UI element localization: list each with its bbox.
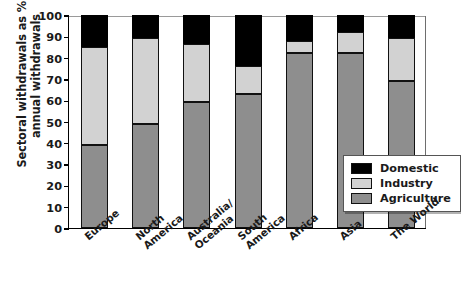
y-tick-label: 0 [22,223,62,236]
bar-segment-industry [132,38,159,123]
legend-label: Industry [380,177,433,190]
y-tick-mark [64,186,69,187]
y-tick-label: 10 [22,201,62,214]
y-tick-mark [64,228,69,229]
bar-segment-agriculture [235,94,262,228]
bar-segment-industry [286,41,313,54]
y-tick-label: 100 [22,10,62,23]
bar-segment-domestic [337,15,364,32]
y-tick-mark [64,15,69,16]
bar-segment-industry [388,38,415,81]
legend-item: Domestic [351,161,451,176]
y-tick-label: 50 [22,116,62,129]
bar-segment-domestic [183,15,210,44]
y-tick-mark [64,79,69,80]
bar-segment-domestic [388,15,415,38]
bar-segment-domestic [81,15,108,47]
bar-south-america [235,15,262,228]
y-tick-label: 30 [22,159,62,172]
bar-africa [286,15,313,228]
legend-swatch-agriculture [351,193,372,204]
bar-europe [81,15,108,228]
y-axis-title: Sectoral withdrawals as % of annual with… [9,0,49,181]
bar-australia-oceania [183,15,210,228]
legend-swatch-domestic [351,163,372,174]
y-tick-label: 60 [22,95,62,108]
y-tick-mark [64,207,69,208]
bar-segment-industry [81,47,108,145]
y-tick-label: 90 [22,31,62,44]
bar-segment-domestic [286,15,313,41]
y-tick-label: 20 [22,180,62,193]
y-tick-mark [64,37,69,38]
plot-area: 0102030405060708090100 DomesticIndustryA… [68,16,426,229]
y-tick-label: 80 [22,52,62,65]
chart-legend: DomesticIndustryAgriculture [343,155,461,212]
bar-segment-industry [235,66,262,94]
legend-swatch-industry [351,178,372,189]
bar-north-america [132,15,159,228]
bar-segment-domestic [132,15,159,38]
bar-segment-agriculture [132,124,159,228]
bar-segment-agriculture [286,53,313,228]
bar-segment-domestic [235,15,262,66]
legend-item: Industry [351,176,451,191]
y-tick-mark [64,58,69,59]
y-tick-mark [64,101,69,102]
y-tick-label: 40 [22,137,62,150]
y-tick-label: 70 [22,73,62,86]
y-tick-mark [64,122,69,123]
bar-segment-industry [183,44,210,103]
bar-segment-industry [337,32,364,53]
y-tick-mark [64,164,69,165]
legend-label: Domestic [380,162,439,175]
bar-segment-agriculture [183,102,210,228]
y-tick-mark [64,143,69,144]
